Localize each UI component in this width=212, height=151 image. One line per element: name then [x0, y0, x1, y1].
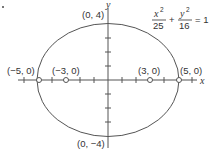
eq-equals: = 1	[195, 14, 208, 25]
label-vertex-right: (5, 0)	[180, 65, 202, 76]
vertex-left-point	[37, 78, 42, 83]
focus-right-point	[148, 78, 153, 83]
eq-term2-den: 16	[179, 20, 190, 31]
label-focus-left: (−3, 0)	[52, 65, 80, 76]
speck-mark	[2, 6, 4, 8]
eq-term1-var: x	[153, 8, 159, 19]
eq-plus: +	[169, 14, 175, 25]
eq-term1-den: 25	[153, 20, 164, 31]
ellipse-equation: x 2 25 + y 2 16 = 1	[152, 6, 208, 31]
ellipse-diagram: (−5, 0) (−3, 0) (3, 0) (5, 0) (0, 4) (0,…	[0, 0, 212, 151]
label-covertex-bottom: (0, −4)	[77, 138, 105, 149]
label-vertex-left: (−5, 0)	[7, 65, 35, 76]
focus-left-point	[64, 78, 69, 83]
vertex-right-point	[177, 78, 182, 83]
eq-term2-var: y	[179, 8, 185, 19]
x-axis-label: x	[199, 75, 205, 86]
eq-term1-exp: 2	[160, 6, 164, 13]
eq-term2-exp: 2	[186, 6, 190, 13]
y-axis-label: y	[105, 0, 111, 10]
label-covertex-top: (0, 4)	[82, 9, 104, 20]
label-focus-right: (3, 0)	[138, 65, 160, 76]
